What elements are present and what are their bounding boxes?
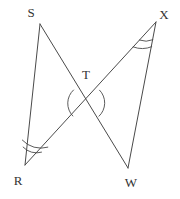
- vertex-label-x: X: [159, 7, 169, 22]
- angle-arc-x-outer: [133, 47, 152, 49]
- vertex-label-r: R: [14, 173, 23, 188]
- vertex-label-s: S: [27, 5, 34, 20]
- vertex-label-w: W: [125, 175, 138, 190]
- segment-rx: [25, 22, 156, 165]
- angle-arc-x-inner: [140, 40, 153, 41]
- geometry-canvas: S X T R W: [0, 0, 180, 199]
- geometry-figure: S X T R W: [0, 0, 180, 199]
- vertex-label-t: T: [82, 67, 90, 82]
- angle-arc-t-left: [68, 90, 74, 116]
- angle-arc-t-right: [99, 90, 105, 116]
- segment-xw: [128, 22, 156, 168]
- segment-sw: [40, 24, 128, 168]
